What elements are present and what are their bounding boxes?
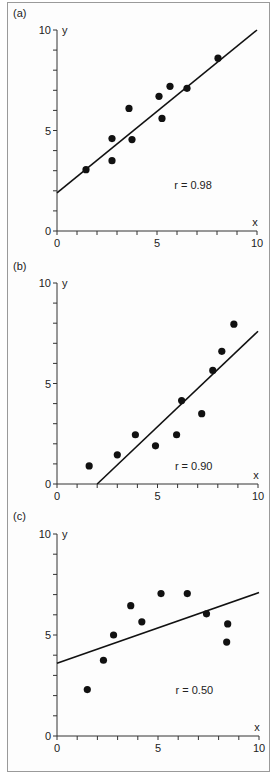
panel-label: (a) <box>13 7 26 19</box>
correlation-annotation: r = 0.50 <box>176 684 214 696</box>
x-tick-label: 0 <box>54 742 60 754</box>
y-tick-label: 10 <box>39 277 51 289</box>
panel-label: (b) <box>13 260 26 272</box>
data-point <box>127 602 134 609</box>
data-point <box>108 157 115 164</box>
y-tick-label: 5 <box>45 629 51 641</box>
x-axis-label: x <box>252 216 258 228</box>
x-tick-label: 5 <box>154 490 160 502</box>
panel-label: (c) <box>13 510 26 522</box>
x-axis-label: x <box>254 721 260 733</box>
x-tick-label: 5 <box>154 237 160 249</box>
y-tick-label: 0 <box>45 225 51 237</box>
data-point <box>209 367 216 374</box>
data-point <box>157 590 164 597</box>
data-point <box>198 410 205 417</box>
data-point <box>203 610 210 617</box>
x-tick-label: 10 <box>253 742 265 754</box>
data-point <box>178 397 185 404</box>
data-point <box>132 431 139 438</box>
x-tick-label: 0 <box>54 490 60 502</box>
y-tick-label: 10 <box>39 528 51 540</box>
data-point <box>86 462 93 469</box>
y-tick-label: 5 <box>45 125 51 137</box>
data-point <box>158 115 165 122</box>
regression-line <box>57 593 259 664</box>
data-point <box>173 431 180 438</box>
data-point <box>218 348 225 355</box>
scatter-panel-c: (c)00551010xyr = 0.50 <box>13 510 265 754</box>
x-tick-label: 0 <box>54 237 60 249</box>
data-point <box>100 657 107 664</box>
data-point <box>108 135 115 142</box>
x-tick-label: 5 <box>155 742 161 754</box>
data-point <box>110 631 117 638</box>
data-point <box>223 638 230 645</box>
y-axis-label: y <box>62 277 68 289</box>
y-tick-label: 0 <box>45 478 51 490</box>
data-point <box>138 618 145 625</box>
data-point <box>84 686 91 693</box>
scatter-panel-a: (a)00551010xyr = 0.98 <box>13 7 263 249</box>
data-point <box>114 451 121 458</box>
data-point <box>230 321 237 328</box>
data-point <box>128 136 135 143</box>
y-axis-label: y <box>62 528 68 540</box>
x-tick-label: 10 <box>252 490 264 502</box>
scatter-panel-b: (b)00551010xyr = 0.90 <box>13 260 264 502</box>
data-point <box>214 55 221 62</box>
scatter-panels: (a)00551010xyr = 0.98(b)00551010xyr = 0.… <box>0 0 276 781</box>
x-axis-label: x <box>253 469 259 481</box>
data-point <box>183 85 190 92</box>
data-point <box>166 83 173 90</box>
data-point <box>82 166 89 173</box>
data-point <box>125 105 132 112</box>
x-tick-label: 10 <box>251 237 263 249</box>
y-axis-label: y <box>62 24 68 36</box>
data-point <box>155 93 162 100</box>
correlation-annotation: r = 0.90 <box>175 460 213 472</box>
data-point <box>224 620 231 627</box>
y-tick-label: 0 <box>45 730 51 742</box>
data-point <box>184 590 191 597</box>
y-tick-label: 10 <box>39 24 51 36</box>
correlation-annotation: r = 0.98 <box>174 179 212 191</box>
data-point <box>152 442 159 449</box>
y-tick-label: 5 <box>45 378 51 390</box>
